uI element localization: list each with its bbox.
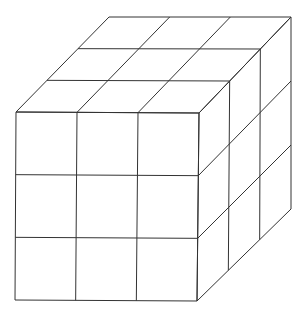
top-horizontal-line	[47, 80, 230, 81]
cube-diagram	[0, 0, 305, 320]
right-vertical-line	[260, 49, 261, 240]
front-face	[15, 112, 199, 301]
